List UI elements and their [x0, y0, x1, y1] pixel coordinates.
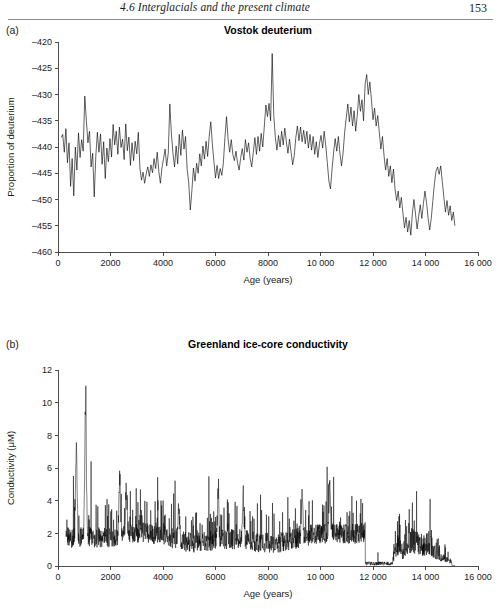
x-tick-label-b: 10 000: [307, 572, 335, 582]
y-tick-label-a: –450: [32, 195, 52, 205]
x-tick-label-b: 4000: [153, 572, 173, 582]
plot-area-greenland-conductivity: 1210864200200040006000800010 00012 00014…: [0, 338, 501, 609]
figure-vostok-deuterium: (a) Vostok deuterium –420–425–430–435–44…: [0, 24, 501, 299]
x-tick-label-a: 10 000: [307, 258, 335, 268]
y-tick-label-b: 2: [47, 529, 52, 539]
x-tick-label-a: 2000: [100, 258, 120, 268]
y-tick-label-a: –435: [32, 116, 52, 126]
x-tick-label-b: 16 000: [464, 572, 492, 582]
y-tick-label-b: 12: [42, 365, 52, 375]
y-tick-label-b: 6: [47, 463, 52, 473]
x-tick-label-b: 14 000: [412, 572, 440, 582]
x-axis-title-b: Age (years): [243, 588, 292, 599]
x-tick-label-a: 6000: [205, 258, 225, 268]
x-tick-label-b: 12 000: [359, 572, 387, 582]
data-series-greenland-conductivity: [66, 386, 455, 566]
x-tick-label-a: 12 000: [359, 258, 387, 268]
y-tick-label-a: –430: [32, 90, 52, 100]
y-tick-label-a: –460: [32, 247, 52, 257]
y-axis-title-b: Conductivity (μM): [5, 431, 16, 505]
plot-area-vostok-deuterium: –420–425–430–435–440–445–450–455–4600200…: [0, 24, 501, 299]
page-number: 153: [469, 1, 487, 16]
header-divider: [8, 19, 493, 20]
y-tick-label-b: 10: [42, 398, 52, 408]
y-tick-label-a: –445: [32, 168, 52, 178]
figure-greenland-conductivity: (b) Greenland ice-core conductivity 1210…: [0, 338, 501, 609]
y-axis-title-a: Proportion of deuterium: [5, 97, 16, 196]
y-tick-label-b: 0: [47, 561, 52, 571]
x-tick-label-b: 8000: [258, 572, 278, 582]
y-tick-label-a: –425: [32, 63, 52, 73]
x-tick-label-a: 0: [55, 258, 60, 268]
x-tick-label-a: 4000: [153, 258, 173, 268]
x-tick-label-b: 0: [55, 572, 60, 582]
x-axis-title-a: Age (years): [243, 274, 292, 285]
y-tick-label-a: –455: [32, 221, 52, 231]
y-tick-label-a: –420: [32, 37, 52, 47]
y-tick-label-a: –440: [32, 142, 52, 152]
y-tick-label-b: 8: [47, 431, 52, 441]
x-tick-label-b: 6000: [205, 572, 225, 582]
header-title: 4.6 Interglacials and the present climat…: [0, 1, 430, 13]
x-tick-label-b: 2000: [100, 572, 120, 582]
page-header: 4.6 Interglacials and the present climat…: [0, 0, 501, 22]
data-series-vostok-deuterium: [61, 54, 455, 236]
x-tick-label-a: 14 000: [412, 258, 440, 268]
x-tick-label-a: 16 000: [464, 258, 492, 268]
y-tick-label-b: 4: [47, 496, 52, 506]
x-tick-label-a: 8000: [258, 258, 278, 268]
